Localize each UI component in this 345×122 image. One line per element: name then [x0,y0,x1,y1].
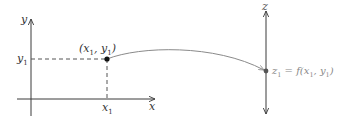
range-point [264,69,269,74]
x-axis-label: x [149,100,156,113]
domain-point [104,56,109,61]
range-value-label: z1 = f(x1, y1) [271,65,334,79]
x1-tick-label: x1 [102,101,113,116]
y-axis-label: y [20,13,28,26]
point-label: (x1, y1) [79,42,116,57]
function-mapping-diagram: y x y1 x1 (x1, y1) z z1 = f(x1, y1) [0,0,345,122]
mapping-arrow-curve [107,50,264,70]
z-axis-label: z [261,0,268,13]
y1-tick-label: y1 [16,52,28,67]
